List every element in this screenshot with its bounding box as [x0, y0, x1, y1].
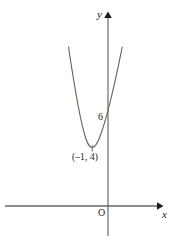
parabola-curve	[69, 47, 123, 148]
parabola-figure: y x O 6 (–1, 4)	[0, 0, 173, 244]
origin-label: O	[98, 208, 105, 218]
y-intercept-label: 6	[98, 112, 103, 122]
graph-canvas	[0, 0, 173, 244]
y-axis-label: y	[97, 9, 102, 20]
y-axis-arrowhead	[104, 12, 112, 19]
vertex-coordinate-label: (–1, 4)	[72, 153, 98, 163]
x-axis-label: x	[162, 209, 167, 220]
